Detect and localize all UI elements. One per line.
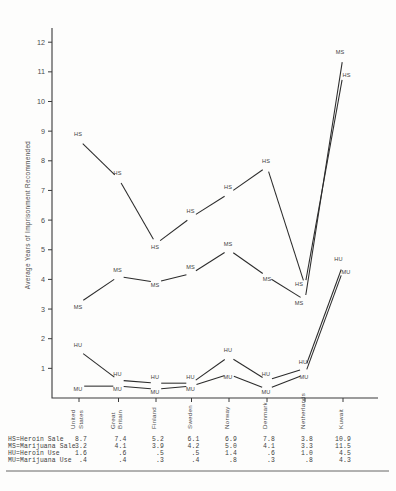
table-cell: 3.9 bbox=[152, 443, 164, 450]
x-category-0: UnitedStates bbox=[69, 409, 83, 429]
series-segment-hs bbox=[83, 144, 115, 175]
x-category-1: GreatBritain bbox=[109, 409, 123, 429]
table-cell: 3.2 bbox=[75, 443, 87, 450]
point-label-mu-1: MU bbox=[113, 386, 122, 392]
y-tick-label: 4 bbox=[41, 275, 45, 284]
point-label-hu-7: HU bbox=[334, 256, 342, 262]
x-category-line: Denmark bbox=[261, 401, 268, 429]
x-category-line: Norway bbox=[223, 406, 230, 429]
series-segment-hu bbox=[307, 269, 341, 363]
table-row-label: MS=Marijuana Sale bbox=[8, 443, 76, 450]
table-cell: .8 bbox=[305, 457, 313, 464]
data-point-labels: HSHSHSHSHSHSHSHSMSMSMSMSMSMSMSMSHUHUHUHU… bbox=[74, 49, 351, 395]
series-segment-ms bbox=[196, 253, 225, 271]
y-tick-label: 1 bbox=[41, 364, 45, 373]
table-cell: .3 bbox=[156, 457, 164, 464]
point-label-mu-6: MU bbox=[300, 374, 309, 380]
x-category-line: Netherlands bbox=[299, 393, 306, 429]
table-cell: .4 bbox=[79, 457, 87, 464]
table-row-label: HU=Heroin Use bbox=[8, 450, 60, 457]
y-axis-title: Average Years of Imprisonment Recommende… bbox=[24, 141, 32, 290]
table-cell: 11.5 bbox=[335, 443, 351, 450]
point-label-hu-3: HU bbox=[186, 374, 194, 380]
table-cell: 1.4 bbox=[225, 450, 237, 457]
series-segment-ms bbox=[83, 279, 114, 300]
point-label-mu-0: MU bbox=[74, 386, 83, 392]
table-cell: .4 bbox=[119, 457, 127, 464]
table-cell: .6 bbox=[119, 450, 127, 457]
series-segment-mu bbox=[124, 387, 151, 389]
table-cell: .3 bbox=[267, 457, 275, 464]
y-tick-label: 5 bbox=[41, 245, 45, 254]
y-tick-label: 10 bbox=[37, 97, 45, 106]
point-label-ms-0: MS bbox=[74, 304, 83, 310]
x-category-line: Sweden bbox=[186, 405, 193, 429]
chart-axes bbox=[52, 28, 378, 398]
point-label-mu-7: MU bbox=[342, 269, 351, 275]
chart-series-group bbox=[83, 62, 342, 389]
point-label-hs-7: HS bbox=[343, 72, 351, 78]
x-category-line: United bbox=[69, 409, 76, 429]
point-label-hs-4: HS bbox=[224, 184, 232, 190]
table-cell: 4.3 bbox=[339, 457, 351, 464]
y-axis-ticks: 123456789101112 bbox=[37, 38, 52, 373]
table-cell: 7.4 bbox=[115, 436, 127, 443]
table-row-label: HS=Heroin Sale bbox=[8, 436, 64, 443]
point-label-hs-1: HS bbox=[114, 170, 122, 176]
point-label-hs-6: HS bbox=[295, 281, 303, 287]
table-cell: 4.1 bbox=[263, 443, 275, 450]
point-label-hu-1: HU bbox=[113, 371, 121, 377]
y-tick-label: 12 bbox=[37, 38, 45, 47]
series-segment-mu bbox=[307, 275, 341, 369]
x-category-7: Kuwait bbox=[337, 409, 344, 429]
point-label-hs-2: HS bbox=[151, 244, 159, 250]
point-label-ms-4: MS bbox=[224, 241, 233, 247]
series-segment-ms bbox=[233, 253, 262, 274]
point-label-ms-2: MS bbox=[151, 282, 160, 288]
table-cell: .5 bbox=[192, 450, 200, 457]
series-segment-mu bbox=[234, 376, 262, 387]
point-label-ms-1: MS bbox=[113, 267, 122, 273]
table-cell: 4.1 bbox=[115, 443, 127, 450]
series-segment-hs bbox=[121, 183, 153, 239]
point-label-ms-5: MS bbox=[263, 276, 272, 282]
x-category-line: Kuwait bbox=[337, 409, 344, 429]
point-label-hs-5: HS bbox=[262, 158, 270, 164]
x-category-line: Finland bbox=[150, 407, 157, 429]
point-label-hu-4: HU bbox=[224, 347, 232, 353]
point-label-mu-3: MU bbox=[186, 386, 195, 392]
figure-page: 123456789101112 Average Years of Impriso… bbox=[0, 0, 396, 491]
table-cell: 5.0 bbox=[225, 443, 237, 450]
y-tick-label: 11 bbox=[38, 67, 45, 76]
point-label-mu-5: MU bbox=[262, 389, 271, 395]
series-segment-ms bbox=[161, 275, 186, 281]
series-segment-hu bbox=[233, 359, 262, 377]
series-segment-hs bbox=[196, 196, 225, 214]
y-tick-label: 7 bbox=[41, 186, 45, 195]
table-cell: .4 bbox=[192, 457, 200, 464]
point-label-mu-4: MU bbox=[224, 374, 233, 380]
point-label-hs-3: HS bbox=[187, 208, 195, 214]
point-label-ms-3: MS bbox=[186, 264, 195, 270]
series-segment-mu bbox=[161, 387, 186, 389]
table-cell: 6.1 bbox=[188, 436, 200, 443]
x-category-4: Norway bbox=[223, 406, 230, 429]
point-label-hu-5: HU bbox=[262, 371, 270, 377]
data-table: HS=Heroin Sale8.77.45.26.16.97.83.810.9M… bbox=[6, 436, 389, 472]
table-cell: 7.8 bbox=[263, 436, 275, 443]
x-category-2: Finland bbox=[150, 407, 157, 429]
point-label-ms-6: MS bbox=[295, 300, 304, 306]
table-cell: 5.2 bbox=[152, 436, 164, 443]
point-label-hu-6: HU bbox=[299, 359, 307, 365]
table-row-label: MU=Marijuana Use bbox=[8, 457, 72, 464]
table-cell: 8.7 bbox=[75, 436, 87, 443]
table-cell: 6.9 bbox=[225, 436, 237, 443]
y-tick-label: 6 bbox=[41, 216, 45, 225]
x-category-line: States bbox=[77, 410, 84, 429]
point-label-hs-0: HS bbox=[74, 131, 82, 137]
point-label-hu-2: HU bbox=[151, 374, 159, 380]
y-axis-label: Average Years of Imprisonment Recommende… bbox=[24, 141, 32, 290]
series-segment-hs bbox=[269, 172, 304, 281]
y-tick-label: 9 bbox=[41, 127, 45, 136]
y-tick-label: 8 bbox=[41, 156, 45, 165]
